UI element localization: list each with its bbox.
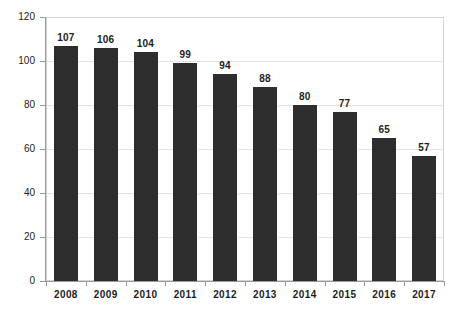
bar-label-2012: 94 — [205, 60, 245, 71]
y-tick-label-60: 60 — [5, 144, 35, 154]
bar-2008[interactable] — [54, 46, 78, 281]
y-tick-100 — [40, 61, 45, 62]
bar-label-2008: 107 — [46, 32, 86, 43]
x-tick-9 — [404, 282, 405, 286]
bar-2010[interactable] — [134, 52, 158, 281]
bar-2016[interactable] — [372, 138, 396, 281]
x-tick-5 — [245, 282, 246, 286]
y-tick-label-80: 80 — [5, 100, 35, 110]
x-tick-1 — [86, 282, 87, 286]
x-tick-label-2015: 2015 — [325, 289, 365, 301]
x-tick-3 — [165, 282, 166, 286]
bar-label-2010: 104 — [126, 38, 166, 49]
x-tick-0 — [46, 282, 47, 286]
x-tick-label-2012: 2012 — [205, 289, 245, 301]
x-tick-label-2016: 2016 — [364, 289, 404, 301]
x-tick-7 — [325, 282, 326, 286]
y-tick-60 — [40, 149, 45, 150]
bar-2017[interactable] — [412, 156, 436, 281]
y-tick-label-40: 40 — [5, 188, 35, 198]
x-tick-8 — [364, 282, 365, 286]
bar-label-2017: 57 — [404, 142, 444, 153]
y-tick-80 — [40, 105, 45, 106]
x-tick-label-2014: 2014 — [285, 289, 325, 301]
x-tick-label-2009: 2009 — [86, 289, 126, 301]
x-tick-10 — [444, 282, 445, 286]
x-tick-label-2010: 2010 — [126, 289, 166, 301]
y-tick-label-100: 100 — [5, 56, 35, 66]
bar-2013[interactable] — [253, 87, 277, 281]
x-tick-label-2011: 2011 — [165, 289, 205, 301]
x-tick-label-2017: 2017 — [404, 289, 444, 301]
x-tick-label-2008: 2008 — [46, 289, 86, 301]
bar-2011[interactable] — [173, 63, 197, 281]
bar-label-2016: 65 — [364, 124, 404, 135]
bar-2014[interactable] — [293, 105, 317, 281]
y-tick-20 — [40, 237, 45, 238]
bar-2015[interactable] — [333, 112, 357, 281]
bars-layer — [46, 17, 444, 281]
x-tick-2 — [126, 282, 127, 286]
x-tick-6 — [285, 282, 286, 286]
bar-label-2014: 80 — [285, 91, 325, 102]
y-tick-120 — [40, 17, 45, 18]
bar-label-2009: 106 — [86, 34, 126, 45]
bar-label-2011: 99 — [165, 49, 205, 60]
y-tick-label-120: 120 — [5, 12, 35, 22]
bar-2009[interactable] — [94, 48, 118, 281]
bar-label-2015: 77 — [325, 98, 365, 109]
x-tick-4 — [205, 282, 206, 286]
x-tick-label-2013: 2013 — [245, 289, 285, 301]
bar-label-2013: 88 — [245, 73, 285, 84]
bar-chart: 120 100 80 60 40 20 0 107 106 104 99 94 … — [0, 0, 456, 310]
y-tick-label-20: 20 — [5, 232, 35, 242]
bar-2012[interactable] — [213, 74, 237, 281]
y-tick-40 — [40, 193, 45, 194]
y-tick-label-0: 0 — [5, 276, 35, 286]
